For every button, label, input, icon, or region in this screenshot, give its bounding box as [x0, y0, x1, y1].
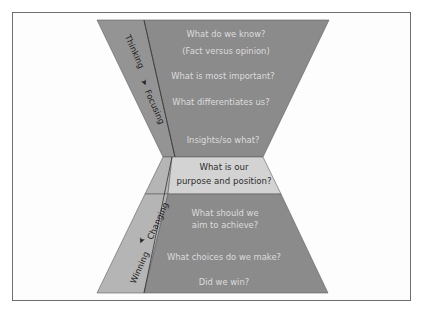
center-line-2: purpose and position?: [176, 175, 271, 187]
question-fact-vs-opinion: (Fact versus opinion): [182, 45, 269, 57]
question-differentiates: What differentiates us?: [172, 96, 269, 108]
question-most-important: What is most important?: [171, 70, 274, 82]
question-insights: Insights/so what?: [187, 134, 260, 146]
center-line-1: What is our: [199, 161, 248, 173]
question-aim-line-1: What should we: [191, 207, 258, 219]
question-did-we-win: Did we win?: [199, 276, 249, 288]
question-aim-line-2: aim to achieve?: [192, 219, 258, 231]
question-choices: What choices do we make?: [167, 251, 281, 263]
question-what-do-we-know: What do we know?: [186, 28, 265, 40]
